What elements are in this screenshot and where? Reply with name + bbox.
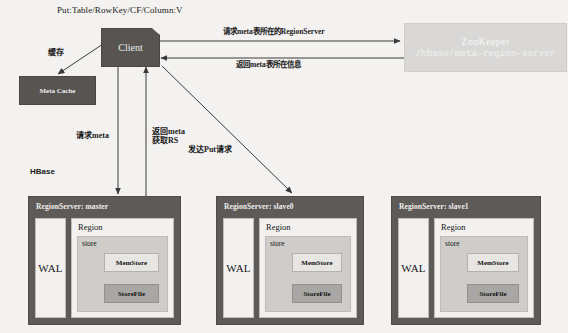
put-operation-label: Put:Table/RowKey/CF/Column:V [57, 5, 183, 15]
region-box[interactable]: Region store MemStore StoreFile [259, 218, 357, 318]
region-label: Region [266, 222, 291, 232]
storefile-label: StoreFile [303, 290, 330, 298]
wal-label: WAL [38, 262, 62, 274]
region-label: Region [78, 222, 103, 232]
region-box[interactable]: Region store MemStore StoreFile [434, 218, 534, 318]
zookeeper-path: /hbase/meta-region-server [415, 48, 555, 59]
edge-label-return-meta-line2: 获取RS [152, 137, 185, 146]
wal-label: WAL [401, 262, 425, 274]
meta-cache-label: Meta Cache [40, 87, 76, 95]
memstore-box[interactable]: MemStore [292, 253, 342, 272]
edge-label-zk-request: 请求meta表所在的RegionServer [223, 28, 325, 36]
storefile-box[interactable]: StoreFile [292, 284, 342, 303]
memstore-label: MemStore [477, 259, 508, 267]
wal-box[interactable]: WAL [223, 218, 254, 318]
edge-client-to-meta-cache [58, 44, 103, 74]
memstore-box[interactable]: MemStore [467, 253, 519, 272]
region-label: Region [441, 222, 466, 232]
store-box[interactable]: store MemStore StoreFile [440, 236, 528, 312]
edge-label-send-put: 发达Put请求 [188, 146, 232, 155]
zookeeper-node[interactable]: ZooKeeper /hbase/meta-region-server [404, 23, 567, 72]
wal-label: WAL [226, 262, 250, 274]
wal-box[interactable]: WAL [35, 218, 66, 318]
client-node[interactable]: Client [101, 28, 160, 67]
meta-cache-node[interactable]: Meta Cache [19, 76, 96, 105]
store-box[interactable]: store MemStore StoreFile [265, 236, 351, 312]
region-server-title: RegionServer: slave0 [224, 202, 294, 211]
region-server-title: RegionServer: slave1 [399, 202, 469, 211]
memstore-label: MemStore [116, 259, 147, 267]
store-box[interactable]: store MemStore StoreFile [77, 236, 168, 312]
edge-label-return-meta: 返回meta 获取RS [152, 128, 185, 146]
wal-box[interactable]: WAL [398, 218, 429, 318]
store-label: store [82, 239, 97, 248]
region-server-slave1[interactable]: RegionServer: slave1 WAL Region store Me… [391, 196, 541, 325]
diagram-canvas: Put:Table/RowKey/CF/Column:V Client Meta… [0, 0, 568, 333]
storefile-label: StoreFile [479, 290, 506, 298]
edge-label-request-meta: 请求meta [76, 132, 109, 141]
hbase-section-label: HBase [30, 168, 55, 177]
edge-label-cache: 缓存 [48, 49, 64, 58]
store-label: store [445, 239, 460, 248]
store-label: store [270, 239, 285, 248]
memstore-label: MemStore [301, 259, 332, 267]
storefile-box[interactable]: StoreFile [467, 284, 519, 303]
storefile-label: StoreFile [118, 290, 145, 298]
memstore-box[interactable]: MemStore [104, 253, 159, 272]
region-server-slave0[interactable]: RegionServer: slave0 WAL Region store Me… [216, 196, 364, 325]
region-server-master[interactable]: RegionServer: master WAL Region store Me… [28, 196, 181, 325]
storefile-box[interactable]: StoreFile [104, 284, 159, 303]
zookeeper-title: ZooKeeper [461, 36, 510, 47]
region-server-title: RegionServer: master [36, 202, 108, 211]
region-box[interactable]: Region store MemStore StoreFile [71, 218, 174, 318]
edge-label-zk-response: 返回meta表所在信息 [236, 61, 301, 69]
client-label: Client [118, 42, 142, 53]
